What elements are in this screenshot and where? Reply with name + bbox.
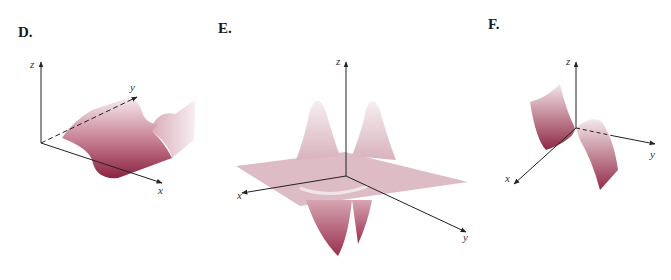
panel-e: z x y <box>236 55 468 256</box>
surface-e-well-right <box>352 200 372 244</box>
x-axis-label: x <box>236 189 242 201</box>
z-axis-label: z <box>565 55 571 67</box>
surface-e-well-left <box>306 200 352 256</box>
z-axis-label: z <box>29 58 35 70</box>
surface-e-peak-right <box>352 101 396 160</box>
panel-f: z y x <box>504 55 655 190</box>
surface-f-right <box>576 119 618 190</box>
y-axis-label: y <box>129 81 135 93</box>
surface-e-peak-left <box>296 100 340 160</box>
surface-d-trough <box>62 98 172 178</box>
y-axis <box>614 136 655 144</box>
y-axis-label: y <box>462 231 468 243</box>
surface-f-left <box>530 84 575 150</box>
z-axis-label: z <box>335 55 341 67</box>
y-axis-label: y <box>649 148 655 160</box>
x-axis-label: x <box>157 184 163 196</box>
figure-canvas: z y x z x y z y x <box>0 0 671 280</box>
panel-d: z y x <box>29 58 195 196</box>
x-axis-label: x <box>504 172 510 184</box>
